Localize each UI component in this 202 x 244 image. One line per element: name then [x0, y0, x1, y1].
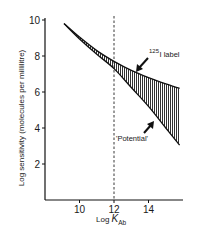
y-tick-label: 10 [29, 15, 41, 26]
x-axis-label-sub: Ab [118, 219, 126, 226]
x-axis-label: Log KAb [96, 213, 127, 226]
y-ticks: 246810 [29, 15, 45, 170]
x-tick-label: 10 [74, 204, 86, 215]
annotation-125i-superscript: 125 [149, 48, 160, 54]
y-tick-label: 8 [34, 51, 40, 62]
annotation-125i-label: 125I label [149, 48, 180, 59]
hatched-band [64, 24, 180, 146]
y-tick-label: 2 [34, 159, 40, 170]
chart-canvas: 246810 101214 Log sensitivity (molecules… [0, 0, 202, 244]
arrow-icon-potential [144, 121, 154, 133]
y-tick-label: 6 [34, 87, 40, 98]
x-axis-label-main: Log [96, 215, 112, 224]
y-axis-label: Log sensitivity (molecules per millilitr… [17, 49, 26, 186]
annotation-125i-main: I label [160, 50, 180, 59]
annotation-potential: 'Potential' [116, 134, 149, 143]
arrow-icon-125i [136, 58, 148, 72]
y-tick-label: 4 [34, 123, 40, 134]
x-tick-label: 14 [143, 204, 155, 215]
